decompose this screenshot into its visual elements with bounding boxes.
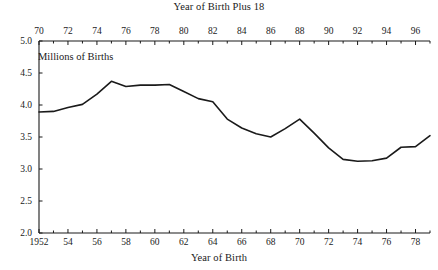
plot-area [0,0,438,270]
births-data-line [39,81,430,161]
axes-group [39,41,430,233]
births-line-chart: Year of Birth Plus 18 Year of Birth Mill… [0,0,438,270]
